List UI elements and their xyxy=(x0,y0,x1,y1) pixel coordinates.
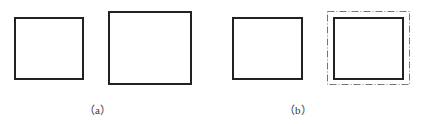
panel-b-square-with-offset xyxy=(333,17,404,80)
panel-b-label: （b） xyxy=(284,101,312,117)
panel-b-label-text: （b） xyxy=(284,104,312,116)
